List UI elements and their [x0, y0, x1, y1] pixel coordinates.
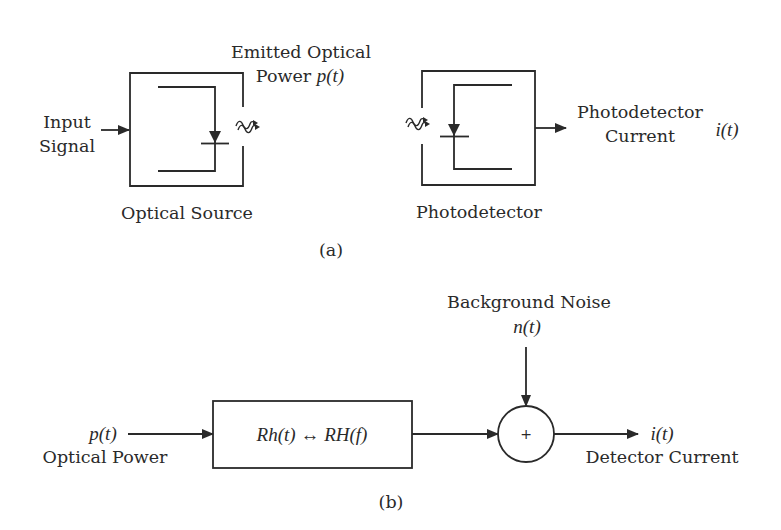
figure-b: p(t) Optical Power Rh(t) ↔ RH(f) Backgro…: [43, 292, 739, 512]
optical-link-diagram: Input Signal Emitted Optical Power p(t) …: [0, 0, 781, 530]
optical-power-math: p(t): [87, 423, 116, 445]
detector-current-label: Detector Current: [585, 447, 738, 467]
emitted-light-icon: [236, 120, 260, 133]
caption-b: (b): [379, 492, 404, 512]
background-noise-math: n(t): [513, 316, 540, 338]
photodetector-current-label-line1: Photodetector: [577, 102, 703, 122]
emitted-power-math: p(t): [315, 65, 344, 87]
incoming-light-icon: [406, 117, 430, 130]
caption-a: (a): [319, 240, 343, 260]
plus-icon: +: [520, 426, 532, 442]
input-signal-label-line2: Signal: [39, 136, 95, 156]
photodiode-icon: [448, 124, 460, 136]
background-noise-label: Background Noise: [447, 292, 611, 312]
emitted-power-word: Power: [256, 66, 317, 86]
led-diode-icon: [209, 131, 221, 143]
figure-a: Input Signal Emitted Optical Power p(t) …: [39, 42, 739, 260]
photodetector-current-label-line2: Current: [605, 126, 675, 146]
optical-source-box: [130, 73, 243, 186]
detector-current-math: i(t): [650, 423, 673, 445]
emitted-power-label-line1: Emitted Optical: [231, 42, 372, 62]
optical-source-label: Optical Source: [121, 203, 253, 223]
photodetector-current-math: i(t): [715, 119, 738, 141]
photodetector-box: [422, 71, 535, 185]
emitted-power-label-line2: Power p(t): [256, 65, 344, 87]
responsivity-transfer-function: Rh(t) ↔ RH(f): [256, 424, 368, 446]
photodetector-label: Photodetector: [416, 202, 542, 222]
input-signal-label-line1: Input: [43, 112, 91, 132]
optical-power-label: Optical Power: [43, 447, 169, 467]
